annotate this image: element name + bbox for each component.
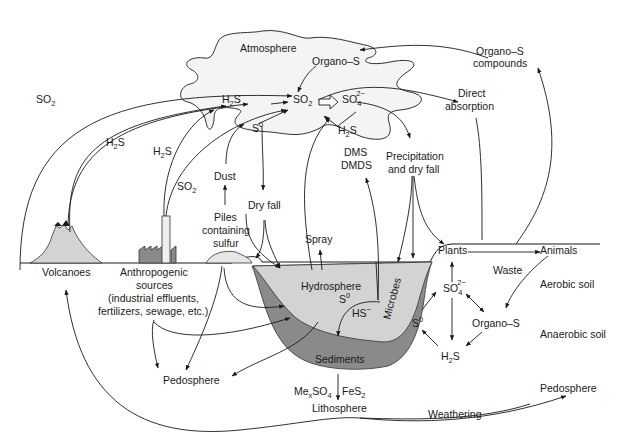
flow-so2-factory: SO2 [177,180,196,195]
pedosphere-left-label: Pedosphere [163,374,220,386]
organo-s-compounds-line-1: Organo–S [476,45,524,57]
factory-shape [139,246,176,263]
weathering-label: Weathering [428,408,482,420]
waste-label: Waste [493,264,523,276]
aerobic-soil-label: Aerobic soil [540,278,594,290]
precipitation-line-2: and dry fall [388,163,439,175]
atm-organo-s: Organo–S [312,55,360,67]
volcano-shape [30,224,102,263]
soil-so4: SO42− [443,278,467,297]
direct-absorption-line-1: Direct [458,87,486,99]
factory-chimney [162,216,170,263]
atmosphere-label: Atmosphere [240,42,297,54]
fes2-label: FeS2 [342,385,365,400]
spray-label: Spray [305,233,333,245]
anthropogenic-line-2: sources [136,279,173,291]
mexso4-label: MexSO4 [294,385,332,400]
dust-label: Dust [214,170,236,182]
sediments-label: Sediments [315,353,365,365]
anthropogenic-line-1: Anthropogenic [120,266,188,278]
anthropogenic-line-4: fertilizers, sewage, etc.) [98,305,208,317]
atm-dmds: DMDS [341,159,372,171]
anaerobic-soil-label: Anaerobic soil [540,328,606,340]
precipitation-line-1: Precipitation [386,150,444,162]
anthropogenic-line-3: (industrial effluents, [108,292,199,304]
pedosphere-right-label: Pedosphere [540,382,597,394]
hydrosphere-label: Hydrosphere [301,280,361,292]
sulfur-pile-shape [206,251,252,263]
organo-s-compounds-line-2: compounds [473,57,527,69]
volcano-crater [54,220,70,226]
soil-organo-s: Organo–S [472,317,520,329]
soil-h2s: H2S [441,350,460,365]
piles-line-1: Piles [214,211,237,223]
plants-label: Plants [438,244,467,256]
animals-label: Animals [540,244,577,256]
soil-s0: S0 [412,315,423,329]
lithosphere-label: Lithosphere [312,402,367,414]
sulfur-cycle-diagram: Atmosphere Organo–S H2S SO2 SO42− S0 H2S… [0,0,624,445]
volcanoes-label: Volcanoes [42,266,90,278]
flow-so2-volcano: SO2 [36,93,55,108]
direct-absorption-line-2: absorption [445,100,494,112]
atm-s0: S0 [252,120,263,134]
piles-line-2: containing [202,224,250,236]
dry-fall-label: Dry fall [248,199,281,211]
atm-dms: DMS [344,146,367,158]
flow-h2s-factory: H2S [153,145,172,160]
piles-line-3: sulfur [213,237,239,249]
